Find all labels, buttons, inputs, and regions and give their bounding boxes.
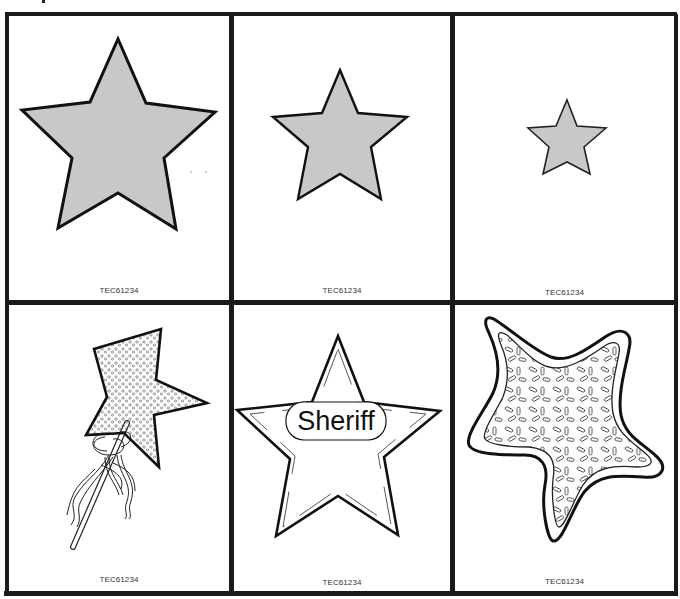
card-code: TEC61234 [9, 286, 229, 295]
card-small-star: TEC61234 [455, 16, 674, 300]
star-cookie-icon [455, 305, 674, 591]
badge-text: Sheriff [286, 406, 386, 436]
card-sheriff-badge: Sheriff TEC61234 [234, 305, 450, 591]
card-code: TEC61234 [234, 578, 450, 587]
card-code: TEC61234 [9, 575, 229, 584]
card-magic-wand: TEC61234 [9, 305, 229, 591]
card-code: TEC61234 [455, 577, 674, 586]
card-medium-star: TEC61234 [234, 16, 450, 300]
card-code: TEC61234 [234, 286, 450, 295]
registration-mark [42, 0, 45, 3]
medium-star-icon [234, 16, 450, 300]
card-code: TEC61234 [455, 288, 674, 297]
border-right [674, 14, 678, 596]
large-star-icon [9, 16, 229, 300]
card-star-cookie: TEC61234 [455, 305, 674, 591]
sheriff-badge-icon [234, 305, 450, 591]
card-large-star: TEC61234 [9, 16, 229, 300]
border-bottom [4, 591, 678, 596]
card-sheet: TEC61234 TEC61234 TEC61234 [0, 0, 680, 599]
magic-wand-icon [9, 305, 229, 591]
small-star-icon [455, 16, 674, 300]
